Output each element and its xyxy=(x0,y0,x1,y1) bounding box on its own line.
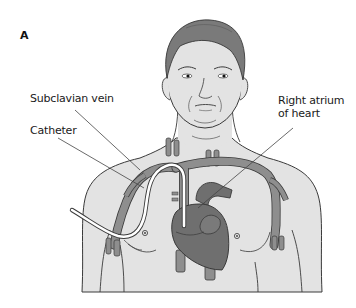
subclavian-vein-leader xyxy=(75,110,140,170)
anatomy-illustration xyxy=(0,0,356,308)
label-right-atrium-line1: Right atrium xyxy=(278,94,344,107)
head xyxy=(162,20,248,128)
label-subclavian-vein: Subclavian vein xyxy=(30,92,114,105)
label-right-atrium-line2: of heart xyxy=(278,107,320,120)
diagram-canvas: A Subclavian vein Catheter Right atrium … xyxy=(0,0,356,308)
label-catheter: Catheter xyxy=(30,124,76,137)
panel-letter: A xyxy=(20,29,29,42)
